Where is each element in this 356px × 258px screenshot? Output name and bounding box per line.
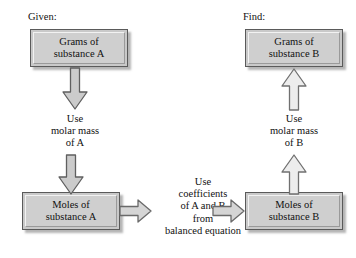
arrow-up-molar-mass-to-grams-b — [280, 69, 308, 111]
caption-molar-a-line2: molar mass — [51, 125, 99, 136]
box-moles-of-substance-b: Moles of substance B — [245, 192, 343, 230]
arrow-right-coefficients-to-moles-b — [213, 199, 245, 223]
label-given: Given: — [28, 11, 57, 23]
arrow-up-moles-b-to-molar-mass — [280, 155, 308, 195]
caption-coefficients-line1: Use — [195, 176, 211, 187]
box-grams-a-line2: substance A — [54, 48, 104, 60]
arrow-down-grams-a-to-molar-mass — [61, 68, 89, 110]
caption-use-molar-mass-of-a: Use molar mass of A — [35, 113, 115, 150]
caption-coefficients-line2: coefficients — [179, 188, 228, 199]
box-grams-of-substance-b: Grams of substance B — [245, 29, 343, 67]
caption-molar-a-line3: of A — [66, 137, 84, 148]
caption-use-molar-mass-of-b: Use molar mass of B — [254, 113, 334, 150]
box-moles-a-line2: substance A — [46, 211, 96, 223]
label-find: Find: — [243, 11, 265, 23]
box-grams-of-substance-a: Grams of substance A — [30, 29, 128, 67]
caption-molar-b-line3: of B — [285, 137, 303, 148]
box-moles-a-line1: Moles of — [52, 199, 90, 211]
box-grams-a-line1: Grams of — [59, 36, 98, 48]
diagram-canvas: Given: Find: Grams of substance A Grams … — [0, 0, 356, 258]
caption-molar-a-line1: Use — [67, 113, 83, 124]
box-moles-b-line2: substance B — [269, 211, 319, 223]
box-grams-b-line1: Grams of — [274, 36, 313, 48]
box-moles-b-line1: Moles of — [275, 199, 313, 211]
arrow-down-molar-mass-to-moles-a — [57, 155, 85, 195]
caption-coefficients-line5: balanced equation — [165, 225, 241, 236]
caption-molar-b-line1: Use — [286, 113, 302, 124]
arrow-right-moles-a-to-coefficients — [120, 199, 152, 223]
caption-molar-b-line2: molar mass — [270, 125, 318, 136]
box-moles-of-substance-a: Moles of substance A — [22, 192, 120, 230]
box-grams-b-line2: substance B — [269, 48, 319, 60]
caption-coefficients-line4: from — [193, 213, 213, 224]
